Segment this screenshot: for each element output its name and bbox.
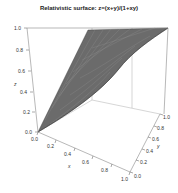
x-axis-label: x [67,163,71,169]
x-tick-0.8: 0.8 [101,167,108,173]
z-tick-0.2: 0.2 [23,109,30,115]
surface-plot: 1.0 0.8 0.6 0.4 0.2 0.0 z 0.0 0.2 0.4 0.… [0,0,178,193]
y-tick-0.2: 0.2 [140,159,147,165]
z-tick-0.0: 0.0 [25,129,32,135]
x-tick-0.6: 0.6 [82,159,89,165]
y-axis: 0.0 0.2 0.4 0.6 0.8 1.0 y [130,114,170,179]
x-tick-0.2: 0.2 [47,143,54,149]
x-tick-0.4: 0.4 [64,151,71,157]
z-tick-0.4: 0.4 [20,89,27,95]
z-tick-1.0: 1.0 [14,25,21,31]
y-tick-0.0: 0.0 [134,173,141,179]
y-tick-1.0: 1.0 [163,114,170,120]
surface-mesh [38,28,168,132]
y-tick-0.6: 0.6 [152,136,159,142]
z-axis: 1.0 0.8 0.6 0.4 0.2 0.0 z [13,25,38,135]
y-tick-0.4: 0.4 [146,148,153,154]
z-tick-0.8: 0.8 [16,47,23,53]
x-axis: 0.0 0.2 0.4 0.6 0.8 1.0 x [31,132,130,182]
chart-figure: Relativistic surface: z=(x+y)/(1+xy) [0,0,178,193]
y-axis-label: y [156,143,160,149]
y-tick-0.8: 0.8 [157,125,164,131]
z-tick-0.6: 0.6 [18,68,25,74]
x-tick-0.0: 0.0 [31,136,38,142]
x-tick-1.0: 1.0 [121,176,128,182]
z-axis-label: z [13,81,17,87]
